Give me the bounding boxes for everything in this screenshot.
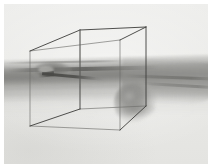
wire-edge-front-bottom (30, 109, 80, 126)
wireframe-bounding-box[interactable] (4, 4, 208, 164)
wire-edge-front-right (120, 27, 146, 40)
wire-edge-front-left (120, 106, 146, 130)
wire-edge-depth-bottom-left (80, 106, 146, 109)
render-viewport[interactable] (4, 4, 208, 164)
screenshot-root (0, 0, 212, 168)
wire-edge-depth-top-left (80, 27, 146, 30)
wire-edge-back-bottom (30, 126, 120, 130)
